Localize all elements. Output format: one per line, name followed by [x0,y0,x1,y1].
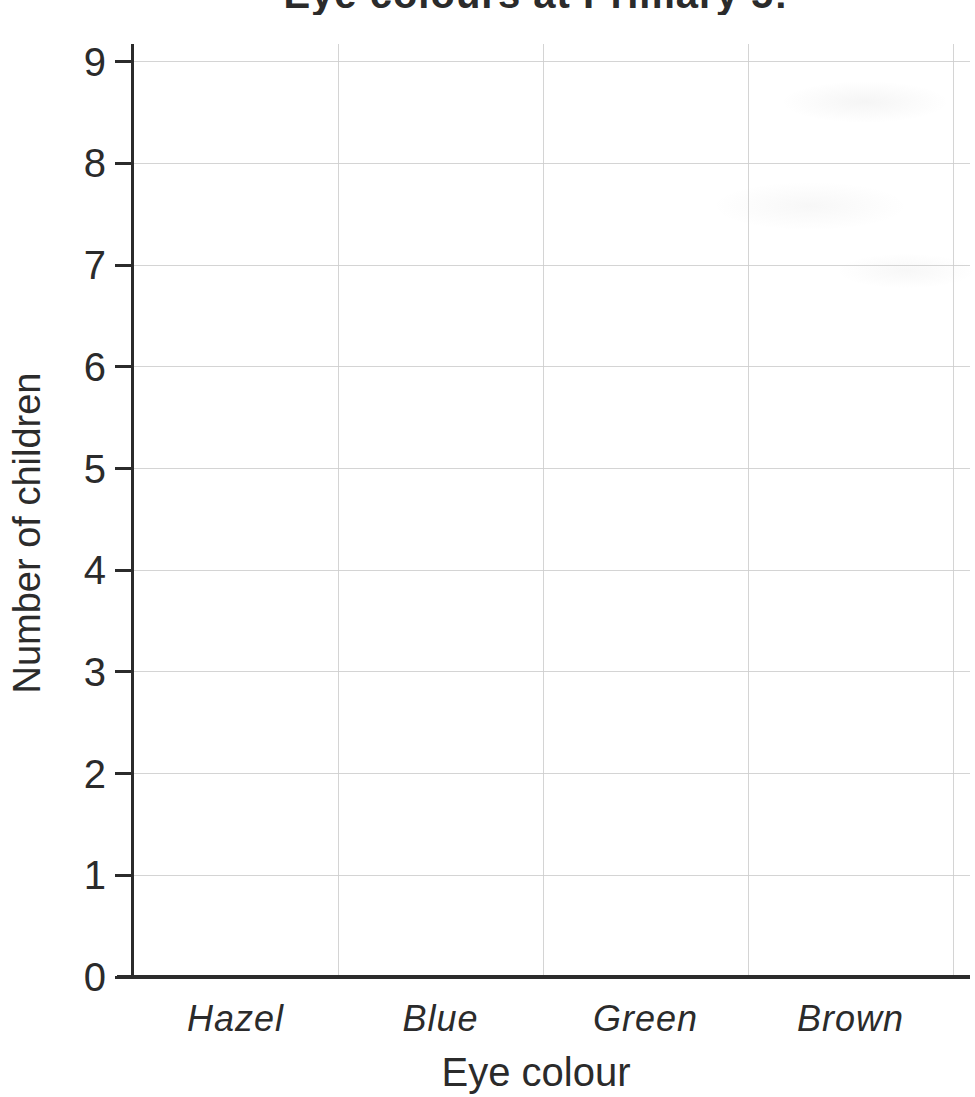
y-tick-mark [115,162,132,165]
h-gridline [133,773,970,774]
y-tick-mark [115,772,132,775]
y-tick-mark [115,467,132,470]
v-gridline [748,44,749,975]
category-label-brown: Brown [748,998,953,1040]
h-gridline [133,163,970,164]
y-tick-mark [115,670,132,673]
y-tick-mark [115,365,132,368]
y-tick-mark [115,60,132,63]
y-tick-mark [115,569,132,572]
x-axis-title: Eye colour [101,1050,971,1094]
y-tick-label: 8 [40,138,106,188]
y-tick-mark [115,264,132,267]
h-gridline [133,875,970,876]
v-gridline [338,44,339,975]
scan-bleedthrough-artifact [700,50,975,310]
h-gridline [133,265,970,266]
y-tick-label: 0 [40,952,106,1002]
y-axis-title: Number of children [4,283,50,783]
v-gridline [953,44,954,975]
v-gridline [543,44,544,975]
y-tick-mark [115,874,132,877]
h-gridline [133,366,970,367]
category-label-blue: Blue [338,998,543,1040]
chart-title-text: Eye colours at Primary 5! [101,0,971,15]
y-axis-line [131,44,134,977]
chart-title: Eye colours at Primary 5! [101,0,971,15]
h-gridline [133,570,970,571]
category-label-green: Green [543,998,748,1040]
h-gridline [133,61,970,62]
worksheet-bar-chart: Eye colours at Primary 5! 0123456789Haze… [0,0,975,1097]
category-label-hazel: Hazel [133,998,338,1040]
h-gridline [133,671,970,672]
y-tick-label: 1 [40,850,106,900]
x-axis-line [117,975,970,979]
h-gridline [133,468,970,469]
y-tick-label: 9 [40,37,106,87]
